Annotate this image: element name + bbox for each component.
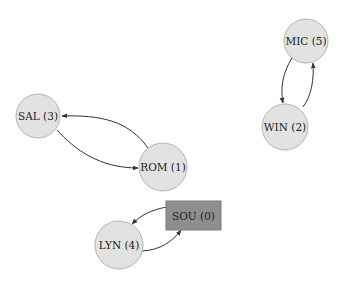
edge-lyn-to-sou xyxy=(142,230,181,251)
node-rom[interactable]: ROM (1) xyxy=(139,143,187,191)
node-sou[interactable]: SOU (0) xyxy=(166,201,221,230)
graph-canvas: SAL (3) ROM (1) MIC (5) WIN (2) LYN (4) … xyxy=(0,0,345,287)
node-label: SOU (0) xyxy=(172,210,215,222)
node-sal[interactable]: SAL (3) xyxy=(16,94,60,138)
edge-sou-to-lyn xyxy=(132,207,167,224)
node-win[interactable]: WIN (2) xyxy=(262,104,308,150)
node-label: ROM (1) xyxy=(140,161,185,173)
edge-win-to-mic xyxy=(303,63,313,107)
edge-mic-to-win xyxy=(282,58,292,103)
node-label: WIN (2) xyxy=(264,121,306,133)
edge-rom-to-sal xyxy=(62,116,148,148)
node-label: SAL (3) xyxy=(18,110,58,122)
node-lyn[interactable]: LYN (4) xyxy=(95,221,143,269)
node-label: MIC (5) xyxy=(285,35,326,47)
edge-sal-to-rom xyxy=(57,130,138,168)
node-label: LYN (4) xyxy=(99,239,140,251)
node-mic[interactable]: MIC (5) xyxy=(284,19,328,63)
